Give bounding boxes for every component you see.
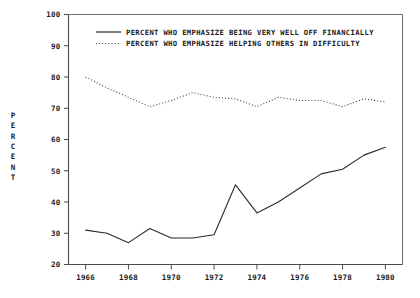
y-axis-title-char: C (11, 142, 16, 151)
x-tick-label: 1978 (333, 273, 352, 282)
y-axis-title-char: N (11, 163, 16, 172)
series-line-0 (86, 147, 386, 242)
y-tick-label: 40 (51, 198, 61, 207)
x-tick-label: 1980 (376, 273, 395, 282)
plot-frame (69, 15, 403, 265)
y-axis-title-char: P (11, 111, 16, 120)
x-tick-label: 1968 (119, 273, 138, 282)
y-tick-label: 80 (51, 73, 61, 82)
y-tick-label: 70 (51, 104, 61, 113)
chart-canvas: 2030405060708090100 19661968197019721974… (0, 0, 420, 298)
y-tick-label: 20 (51, 260, 61, 269)
x-tick-label: 1970 (162, 273, 181, 282)
legend-label: PERCENT WHO EMPHASIZE BEING VERY WELL OF… (126, 28, 374, 37)
y-axis-ticks: 2030405060708090100 (46, 10, 68, 269)
y-axis-title-char: E (11, 121, 16, 130)
y-axis-title-char: E (11, 152, 16, 161)
line-chart: 2030405060708090100 19661968197019721974… (0, 0, 420, 298)
y-tick-label: 50 (51, 167, 61, 176)
chart-legend: PERCENT WHO EMPHASIZE BEING VERY WELL OF… (96, 28, 374, 49)
y-axis-title-char: T (11, 173, 16, 182)
series-line-1 (86, 77, 386, 107)
x-axis-ticks: 19661968197019721974197619781980 (76, 265, 395, 283)
x-tick-label: 1976 (290, 273, 309, 282)
legend-label: PERCENT WHO EMPHASIZE HELPING OTHERS IN … (126, 39, 360, 48)
x-tick-label: 1972 (205, 273, 224, 282)
y-axis-title: PERCENT (11, 111, 16, 182)
y-tick-label: 30 (51, 229, 61, 238)
y-tick-label: 90 (51, 42, 61, 51)
y-tick-label: 100 (46, 10, 60, 19)
y-axis-title-char: R (11, 132, 16, 141)
x-tick-label: 1974 (247, 273, 266, 282)
x-tick-label: 1966 (76, 273, 95, 282)
y-tick-label: 60 (51, 135, 61, 144)
series-layer (86, 77, 386, 243)
